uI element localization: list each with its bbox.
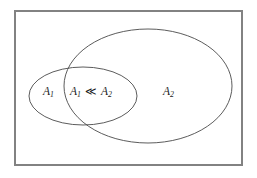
much-less-than-operator-icon: ≪: [85, 85, 97, 97]
venn-diagram-figure: A1 A1≪A2 A2: [0, 0, 257, 178]
venn-diagram-canvas: A1 A1≪A2 A2: [0, 0, 257, 178]
label-set-a1-subscript: 1: [50, 90, 54, 99]
label-set-a2: A2: [162, 85, 174, 99]
label-set-a1: A1: [42, 85, 54, 99]
label-intersection-subscript2: 2: [108, 90, 112, 99]
label-intersection-a1-ll-a2: A1≪A2: [69, 85, 112, 99]
label-set-a2-subscript: 2: [170, 90, 174, 99]
label-intersection-subscript1: 1: [77, 90, 81, 99]
